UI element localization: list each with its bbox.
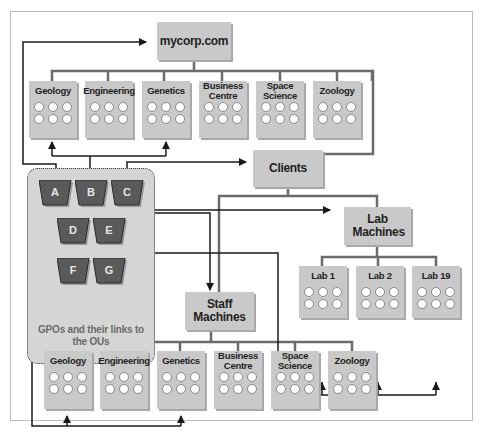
ou-label: Space Science: [260, 81, 300, 101]
node-label: Clients: [269, 162, 307, 175]
ou-lab-1[interactable]: Lab 1: [299, 266, 347, 318]
computer-icons: [333, 372, 372, 394]
gpo-label: C: [111, 180, 143, 204]
ou-label: Lab 2: [368, 266, 391, 286]
ou-label: Zoology: [335, 351, 370, 371]
gpo-c[interactable]: C: [111, 180, 145, 206]
gpo-label: E: [93, 218, 125, 242]
ou-clients[interactable]: Clients: [253, 150, 323, 187]
ou-label: Lab 19: [422, 266, 450, 286]
computer-icons: [261, 102, 300, 124]
ou-label: Business Centre: [203, 81, 243, 101]
staff-ou-engineering[interactable]: Engineering: [100, 351, 148, 409]
staff-ou-space-science[interactable]: Space Science: [271, 351, 319, 409]
ou-label: Genetics: [147, 81, 185, 101]
computer-icons: [49, 372, 88, 394]
node-label: Lab Machines: [353, 213, 403, 239]
node-label: Staff Machines: [192, 298, 247, 324]
gpo-label: F: [57, 258, 89, 282]
computer-icons: [204, 102, 243, 124]
ou-label: Engineering: [98, 351, 150, 371]
ou-staff-machines[interactable]: Staff Machines: [185, 292, 254, 330]
domain-node-mycorp[interactable]: mycorp.com: [157, 22, 231, 60]
ou-label: Geology: [50, 351, 86, 371]
gpo-panel-caption: GPOs and their links to the OUs: [35, 324, 147, 348]
computer-icons: [361, 287, 400, 309]
computer-icons: [162, 372, 201, 394]
ou-label: Geology: [35, 81, 71, 101]
gpo-f[interactable]: F: [57, 258, 91, 284]
gpo-label: D: [57, 218, 89, 242]
node-label: mycorp.com: [160, 35, 228, 48]
ou-label: Zoology: [320, 81, 355, 101]
staff-ou-genetics[interactable]: Genetics: [157, 351, 205, 409]
computer-icons: [147, 102, 186, 124]
ou-lab-2[interactable]: Lab 2: [356, 266, 404, 318]
gpo-label: B: [75, 180, 107, 204]
ou-label: Genetics: [162, 351, 200, 371]
ou-lab-machines[interactable]: Lab Machines: [344, 207, 411, 245]
ou-geology[interactable]: Geology: [29, 81, 77, 138]
computer-icons: [304, 287, 343, 309]
gpo-d[interactable]: D: [57, 218, 91, 244]
computer-icons: [318, 102, 357, 124]
ou-label: Lab 1: [311, 266, 334, 286]
computer-icons: [105, 372, 144, 394]
staff-ou-business-centre[interactable]: Business Centre: [214, 351, 262, 409]
ou-label: Engineering: [83, 81, 135, 101]
computer-icons: [417, 287, 456, 309]
gpo-e[interactable]: E: [93, 218, 127, 244]
ou-lab-19[interactable]: Lab 19: [412, 266, 460, 318]
computer-icons: [34, 102, 73, 124]
ou-label: Space Science: [275, 351, 315, 371]
ou-business-centre[interactable]: Business Centre: [199, 81, 247, 138]
computer-icons: [90, 102, 129, 124]
ou-label: Business Centre: [218, 351, 258, 371]
gpo-g[interactable]: G: [93, 258, 127, 284]
ou-space-science[interactable]: Space Science: [256, 81, 304, 138]
gpo-label: A: [39, 180, 71, 204]
ou-genetics[interactable]: Genetics: [142, 81, 190, 138]
gpo-label: G: [93, 258, 125, 282]
gpo-b[interactable]: B: [75, 180, 109, 206]
computer-icons: [219, 372, 258, 394]
staff-ou-zoology[interactable]: Zoology: [328, 351, 376, 409]
computer-icons: [276, 372, 315, 394]
ou-zoology[interactable]: Zoology: [313, 81, 361, 138]
gpo-a[interactable]: A: [39, 180, 73, 206]
ou-engineering[interactable]: Engineering: [85, 81, 133, 138]
staff-ou-geology[interactable]: Geology: [44, 351, 92, 409]
